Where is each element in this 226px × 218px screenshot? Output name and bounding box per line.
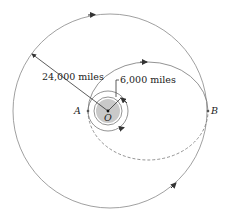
diagram-canvas: 24,000 miles 6,000 miles A B O bbox=[0, 0, 226, 218]
inner-orbit-arrow bbox=[119, 128, 124, 130]
inner-radius-label: 6,000 miles bbox=[120, 74, 176, 85]
outer-radius-label: 24,000 miles bbox=[42, 71, 104, 82]
outer-radius-line bbox=[32, 54, 108, 111]
center-o-label: O bbox=[104, 112, 112, 123]
point-b-label: B bbox=[210, 105, 218, 116]
point-a-label: A bbox=[73, 105, 81, 116]
point-b-dot bbox=[207, 110, 210, 113]
point-a-dot bbox=[87, 110, 90, 113]
orbit-diagram: 24,000 miles 6,000 miles A B O bbox=[0, 0, 226, 218]
